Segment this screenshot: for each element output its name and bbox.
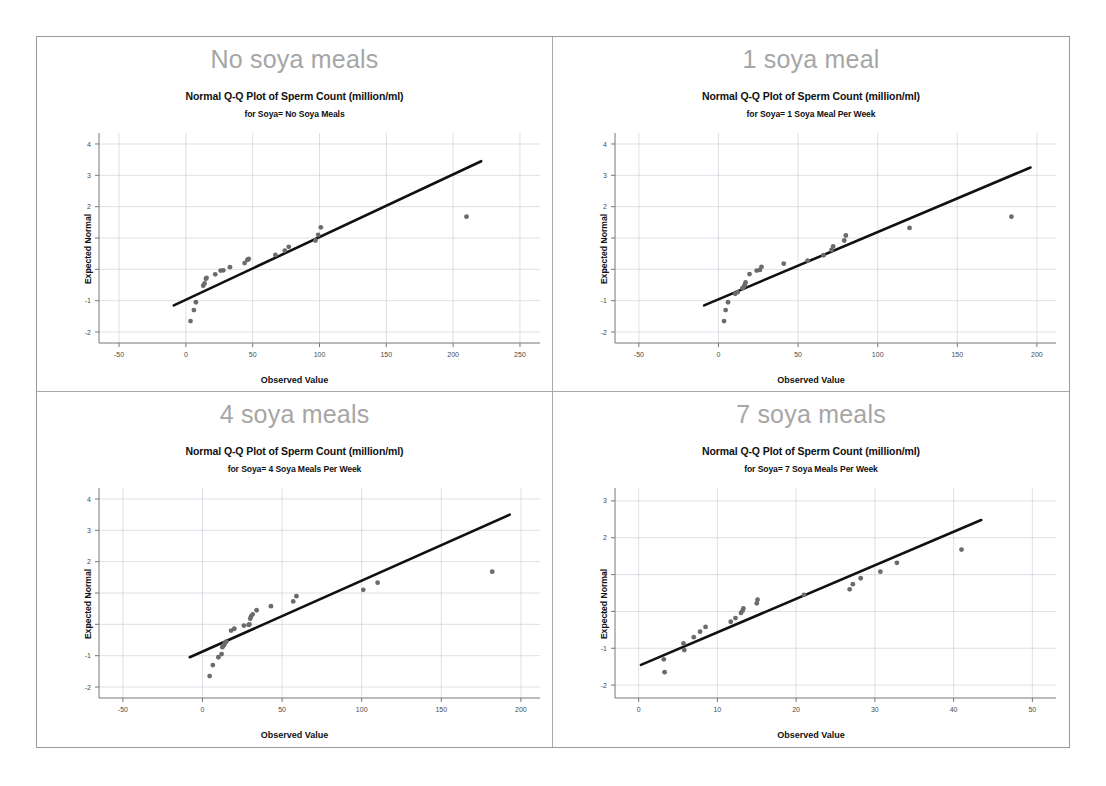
svg-text:-50: -50 — [118, 706, 128, 713]
qq-plot-area: Expected Normal 43210-1-2-50050100150200… — [37, 125, 552, 373]
qq-plot-svg: 3210-1-201020304050 — [553, 480, 1069, 728]
panel-title: 7 soya meals — [553, 401, 1069, 429]
svg-text:40: 40 — [950, 706, 958, 713]
svg-text:30: 30 — [871, 706, 879, 713]
svg-text:50: 50 — [1028, 706, 1036, 713]
svg-text:-1: -1 — [601, 644, 607, 651]
svg-text:-50: -50 — [634, 351, 644, 358]
panel-1-soya-meal: 1 soya meal Normal Q-Q Plot of Sperm Cou… — [553, 37, 1069, 392]
svg-text:-2: -2 — [601, 681, 607, 688]
svg-text:4: 4 — [603, 140, 607, 147]
chart-title: Normal Q-Q Plot of Sperm Count (million/… — [37, 90, 552, 102]
svg-text:4: 4 — [87, 140, 91, 147]
svg-text:0: 0 — [184, 351, 188, 358]
svg-text:150: 150 — [380, 351, 392, 358]
svg-text:50: 50 — [249, 351, 257, 358]
panel-title: 4 soya meals — [37, 401, 552, 429]
svg-text:-2: -2 — [85, 328, 91, 335]
svg-text:4: 4 — [87, 495, 91, 502]
qq-plot-area: Expected Normal 43210-1-2-50050100150200 — [37, 480, 552, 728]
svg-text:100: 100 — [872, 351, 884, 358]
panel-no-soya-meals: No soya meals Normal Q-Q Plot of Sperm C… — [37, 37, 553, 392]
svg-text:100: 100 — [314, 351, 326, 358]
svg-text:50: 50 — [278, 706, 286, 713]
svg-text:3: 3 — [603, 171, 607, 178]
svg-text:2: 2 — [87, 203, 91, 210]
x-axis-label: Observed Value — [553, 375, 1069, 385]
x-axis-label: Observed Value — [553, 730, 1069, 740]
svg-text:200: 200 — [515, 706, 527, 713]
qq-plot-svg: 43210-1-2-50050100150200 — [37, 480, 553, 728]
svg-text:3: 3 — [603, 497, 607, 504]
panel-grid: No soya meals Normal Q-Q Plot of Sperm C… — [36, 36, 1070, 748]
svg-text:250: 250 — [514, 351, 526, 358]
qq-plot-area: Expected Normal 3210-1-201020304050 — [553, 480, 1069, 728]
chart-subtitle: for Soya= 1 Soya Meal Per Week — [553, 109, 1069, 119]
qq-plot-svg: 43210-1-2-50050100150200 — [553, 125, 1069, 373]
svg-text:-50: -50 — [114, 351, 124, 358]
panel-title: No soya meals — [37, 46, 552, 74]
svg-text:2: 2 — [603, 534, 607, 541]
y-axis-label: Expected Normal — [83, 568, 93, 638]
svg-text:200: 200 — [447, 351, 459, 358]
chart-title: Normal Q-Q Plot of Sperm Count (million/… — [553, 445, 1069, 457]
chart-title: Normal Q-Q Plot of Sperm Count (million/… — [37, 445, 552, 457]
chart-subtitle: for Soya= 7 Soya Meals Per Week — [553, 464, 1069, 474]
x-axis-label: Observed Value — [37, 375, 552, 385]
svg-text:-1: -1 — [85, 652, 91, 659]
svg-text:200: 200 — [1031, 351, 1043, 358]
svg-text:-1: -1 — [85, 297, 91, 304]
chart-subtitle: for Soya= No Soya Meals — [37, 109, 552, 119]
svg-text:3: 3 — [87, 171, 91, 178]
y-axis-label: Expected Normal — [599, 568, 609, 638]
panel-title: 1 soya meal — [553, 46, 1069, 74]
svg-text:20: 20 — [792, 706, 800, 713]
svg-text:10: 10 — [713, 706, 721, 713]
qq-plot-svg: 43210-1-2-50050100150200250 — [37, 125, 553, 373]
svg-text:0: 0 — [637, 706, 641, 713]
chart-subtitle: for Soya= 4 Soya Meals Per Week — [37, 464, 552, 474]
svg-text:-1: -1 — [601, 297, 607, 304]
svg-text:0: 0 — [201, 706, 205, 713]
x-axis-label: Observed Value — [37, 730, 552, 740]
qq-plot-area: Expected Normal 43210-1-2-50050100150200 — [553, 125, 1069, 373]
svg-text:150: 150 — [435, 706, 447, 713]
svg-text:2: 2 — [87, 558, 91, 565]
svg-text:-2: -2 — [601, 328, 607, 335]
svg-text:-2: -2 — [85, 683, 91, 690]
y-axis-label: Expected Normal — [599, 213, 609, 283]
y-axis-label: Expected Normal — [83, 213, 93, 283]
svg-text:0: 0 — [717, 351, 721, 358]
svg-text:150: 150 — [951, 351, 963, 358]
panel-7-soya-meals: 7 soya meals Normal Q-Q Plot of Sperm Co… — [553, 392, 1069, 747]
svg-text:2: 2 — [603, 203, 607, 210]
svg-text:3: 3 — [87, 526, 91, 533]
panel-4-soya-meals: 4 soya meals Normal Q-Q Plot of Sperm Co… — [37, 392, 553, 747]
svg-text:100: 100 — [356, 706, 368, 713]
chart-title: Normal Q-Q Plot of Sperm Count (million/… — [553, 90, 1069, 102]
svg-text:50: 50 — [794, 351, 802, 358]
figure-page: No soya meals Normal Q-Q Plot of Sperm C… — [0, 0, 1106, 786]
